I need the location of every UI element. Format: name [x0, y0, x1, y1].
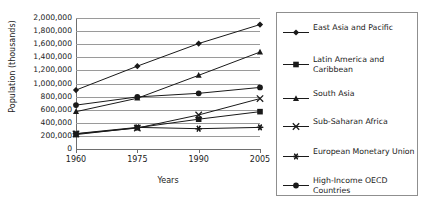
gridline	[76, 44, 260, 45]
legend-item-label: East Asia and Pacific	[311, 23, 393, 33]
y-axis-tick-label: 1,800,000	[12, 27, 72, 35]
gridline	[76, 110, 260, 111]
legend-item[interactable]: European Monetary Union	[281, 147, 415, 158]
gridline	[76, 18, 260, 19]
data-point-square	[293, 62, 299, 68]
x-axis-tick-label: 1975	[114, 155, 160, 165]
gridline	[76, 123, 260, 124]
data-point-diamond	[293, 29, 299, 35]
legend-item-label: Sub-Saharan Africa	[311, 117, 388, 127]
gridline	[76, 70, 260, 71]
gridline	[76, 31, 260, 32]
y-axis-tick-label: 800,000	[12, 93, 72, 101]
square-marker-icon	[281, 55, 311, 66]
y-axis-tick-label: 1,200,000	[12, 66, 72, 74]
y-axis-tick-labels: 2,000,0001,800,0001,600,0001,400,0001,20…	[8, 18, 72, 149]
asterisk-marker-icon	[281, 147, 311, 158]
legend-item-label: Latin America and Caribbean	[311, 55, 415, 74]
y-axis-tick-label: 600,000	[12, 106, 72, 114]
gridline	[76, 97, 260, 98]
x-axis-tick-mark	[76, 149, 77, 153]
y-axis-tick-label: 1,000,000	[12, 80, 72, 88]
diamond-marker-icon	[281, 23, 311, 34]
gridline	[76, 57, 260, 58]
gridline	[76, 136, 260, 137]
data-point-asterisk	[293, 154, 299, 160]
x-axis-tick-label: 1960	[53, 155, 99, 165]
legend-item[interactable]: East Asia and Pacific	[281, 23, 415, 34]
legend-item-label: High-Income OECD Countries	[311, 176, 415, 195]
y-axis-tick-label: 400,000	[12, 119, 72, 127]
circle-marker-icon	[281, 176, 311, 187]
y-axis-tick-label: 1,400,000	[12, 53, 72, 61]
x-axis-tick-label: 1990	[176, 155, 222, 165]
legend-item[interactable]: Sub-Saharan Africa	[281, 117, 415, 128]
x-axis-tick-mark	[199, 149, 200, 153]
legend-item-label: European Monetary Union	[311, 147, 415, 157]
x-axis-tick-mark	[137, 149, 138, 153]
chart-figure: Population (thousands) 2,000,0001,800,00…	[0, 0, 426, 206]
gridline	[76, 84, 260, 85]
y-axis-tick-label: 0	[12, 145, 72, 153]
data-point-circle	[293, 183, 299, 189]
legend-item[interactable]: Latin America and Caribbean	[281, 55, 415, 74]
legend-item-label: South Asia	[311, 89, 354, 99]
y-axis-tick-label: 200,000	[12, 132, 72, 140]
triangle-marker-icon	[281, 89, 311, 100]
cross-marker-icon	[281, 117, 311, 128]
y-axis-tick-label: 2,000,000	[12, 14, 72, 22]
legend-item[interactable]: South Asia	[281, 89, 415, 100]
plot-area	[76, 18, 260, 149]
legend-item[interactable]: High-Income OECD Countries	[281, 176, 415, 195]
gridline	[76, 149, 260, 150]
chart-legend: East Asia and PacificLatin America and C…	[276, 12, 418, 196]
x-axis-title: Years	[76, 176, 260, 185]
y-axis-tick-label: 1,600,000	[12, 40, 72, 48]
x-axis-tick-mark	[260, 149, 261, 153]
